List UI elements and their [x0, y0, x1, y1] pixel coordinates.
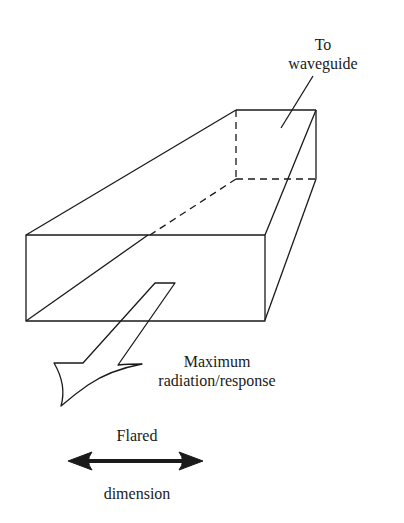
waveguide-leader-line — [281, 76, 313, 128]
maximum-radiation-line2: radiation/response — [136, 371, 298, 390]
maximum-radiation-label: Maximum radiation/response — [136, 352, 298, 390]
bottom-right-flare-edge — [265, 179, 316, 320]
flared-label: Flared — [97, 426, 177, 445]
horn-antenna-diagram — [0, 0, 404, 523]
top-left-flare-edge — [26, 110, 236, 235]
bottom-left-hidden-flare-edge — [150, 179, 236, 235]
to-waveguide-line2: waveguide — [268, 54, 378, 73]
to-waveguide-line1: To — [268, 35, 378, 54]
maximum-radiation-line1: Maximum — [136, 352, 298, 371]
double-arrow-icon — [68, 452, 203, 470]
bottom-left-flare-edge-visible — [26, 235, 148, 321]
top-right-flare-edge — [265, 110, 316, 235]
dimension-label: dimension — [87, 484, 187, 503]
front-aperture — [26, 235, 265, 321]
to-waveguide-label: To waveguide — [268, 35, 378, 73]
